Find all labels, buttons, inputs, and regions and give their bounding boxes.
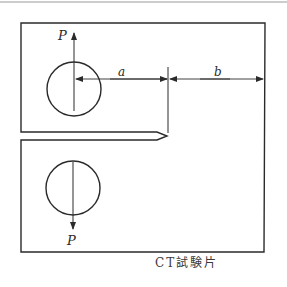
dimension-label-a: a [118, 65, 125, 79]
diagram-svg: P P a b CT試験片 [0, 0, 287, 287]
ct-specimen-diagram: P P a b CT試験片 [0, 0, 287, 287]
load-label-top: P [57, 28, 67, 43]
load-label-bottom: P [66, 233, 76, 248]
specimen-outline [21, 23, 265, 252]
dimension-label-b: b [214, 65, 222, 79]
figure-caption: CT試験片 [155, 255, 218, 270]
